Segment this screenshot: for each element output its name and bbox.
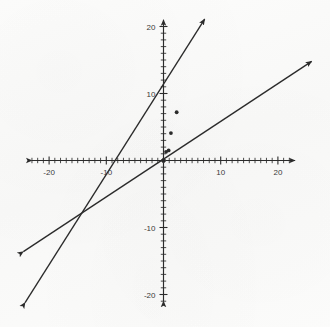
x-axis-tick-label: -20 — [43, 168, 55, 177]
graph-figure: -20-1010202010-10-20 — [0, 0, 330, 327]
y-axis-tick-label: 20 — [147, 23, 156, 32]
y-axis-tick-label: 10 — [147, 90, 156, 99]
y-axis-tick-label: -20 — [144, 291, 156, 300]
plotted-line — [23, 61, 311, 251]
plotted-point — [175, 110, 179, 114]
plotted-point — [169, 131, 173, 135]
plotted-point — [162, 159, 166, 163]
x-axis-tick-label: -10 — [101, 168, 113, 177]
coordinate-plane-plot: -20-1010202010-10-20 — [0, 0, 330, 327]
y-axis-tick-label: -10 — [144, 224, 156, 233]
x-axis-tick-label: 20 — [273, 168, 282, 177]
x-axis-tick-label: 10 — [216, 168, 225, 177]
plotted-point — [167, 149, 171, 153]
tick-marks-group — [32, 27, 289, 302]
